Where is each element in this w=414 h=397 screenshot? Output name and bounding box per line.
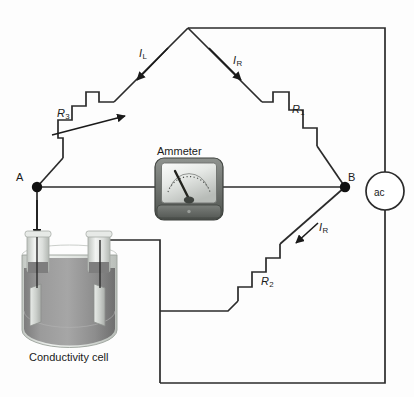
node-a-label: A (16, 172, 23, 183)
cell-electrode-plate-right (94, 284, 105, 326)
resistor-r3-subscript: 3 (65, 112, 70, 121)
wire-r3-to-node-a (37, 158, 63, 187)
resistor-r2-subscript: 2 (269, 280, 274, 289)
resistor-r3-label: R3 (57, 108, 70, 121)
ammeter-label: Ammeter (157, 146, 202, 157)
resistor-r1-subscript: 1 (300, 108, 305, 117)
current-ir-top-label: IR (233, 55, 242, 68)
conductivity-cell-caption: Conductivity cell (29, 352, 108, 363)
circuit-schematic-canvas (0, 0, 414, 397)
resistor-r2-body (238, 244, 280, 301)
cell-left-tube-collar (25, 231, 51, 237)
conductivity-cell (22, 231, 117, 348)
wire-cell-tap-to-r2 (160, 301, 238, 311)
wire-r2-to-node-b (280, 187, 345, 244)
resistor-r3-symbol: R (57, 107, 65, 119)
current-ir-bottom-subscript: R (322, 226, 328, 235)
resistor-r1-symbol: R (292, 103, 300, 115)
cell-electrode-plate-left (30, 284, 41, 326)
circuit-diagram-root: A B IL IR IR R1 R2 R3 ac Ammeter Conduct… (0, 0, 414, 397)
cell-left-tube-liquid (28, 262, 48, 273)
resistor-r2-label: R2 (261, 276, 274, 289)
current-il-subscript: L (142, 52, 147, 61)
current-ir-top-subscript: R (236, 59, 242, 68)
wire-r1-to-node-b (317, 146, 345, 187)
resistor-r1-label: R1 (292, 104, 305, 117)
ac-source-label: ac (374, 188, 385, 198)
ammeter-base-screw (187, 210, 190, 213)
resistor-r1-body (262, 92, 317, 146)
node-b-label: B (348, 172, 355, 183)
wire-ac-to-bottom-rail (160, 210, 385, 383)
resistor-r2-symbol: R (261, 275, 269, 287)
cell-right-tube-collar (86, 231, 112, 237)
cell-right-tube-liquid (89, 262, 109, 273)
ammeter-instrument (155, 158, 223, 220)
resistor-r3-body (58, 92, 114, 158)
ammeter-pivot (184, 197, 194, 204)
current-il-label: IL (139, 48, 147, 61)
wire-top-right-rail (188, 28, 385, 172)
node-a-dot (32, 182, 42, 192)
node-b-dot (340, 182, 350, 192)
current-ir-bottom-label: IR (319, 222, 328, 235)
ac-source-symbol (366, 172, 404, 210)
